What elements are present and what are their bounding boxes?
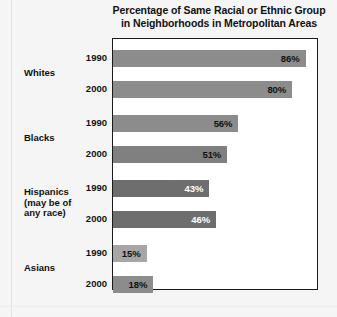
chart-title-line-1: Percentage of Same Racial or Ethnic Grou… [104,4,334,17]
bar-value-label: 80% [267,84,292,95]
bar-row: 43% [113,180,319,197]
plot-area: 86%80%56%51%43%46%15%18% [112,38,318,290]
bar-whites-1990: 86% [113,50,306,67]
bar-row: 46% [113,211,319,228]
bar-row: 56% [113,115,319,132]
bar-value-label: 86% [281,53,306,64]
group-label-asians: Asians [24,263,90,274]
bar-row: 51% [113,146,319,163]
bar-hispanics-1990: 43% [113,180,209,197]
bar-blacks-1990: 56% [113,115,238,132]
year-label-2000: 2000 [73,148,107,159]
bar-asians-1990: 15% [113,245,147,262]
group-label-line: any race) [24,208,90,219]
bar-value-label: 15% [122,248,147,259]
bar-asians-2000: 18% [113,276,153,293]
year-label-1990: 1990 [73,52,107,63]
group-label-line: Whites [24,68,90,79]
bar-value-label: 46% [191,214,216,225]
chart-figure: Percentage of Same Racial or Ethnic Grou… [0,0,337,317]
bar-value-label: 43% [185,183,210,194]
bar-row: 18% [113,276,319,293]
year-label-2000: 2000 [73,83,107,94]
bar-row: 15% [113,245,319,262]
group-label-hispanics: Hispanics(may be ofany race) [24,187,90,219]
bar-blacks-2000: 51% [113,146,227,163]
page-edge-rule-bottom [0,306,337,307]
bar-row: 80% [113,81,319,98]
chart-title-line-2: in Neighborhoods in Metropolitan Areas [104,17,334,30]
group-label-line: Blacks [24,133,90,144]
year-label-1990: 1990 [73,247,107,258]
group-label-line: Asians [24,263,90,274]
chart-title: Percentage of Same Racial or Ethnic Grou… [104,4,334,29]
bar-hispanics-2000: 46% [113,211,216,228]
bar-row: 86% [113,50,319,67]
bar-value-label: 56% [214,118,239,129]
bar-value-label: 51% [202,149,227,160]
group-label-blacks: Blacks [24,133,90,144]
bar-value-label: 18% [129,279,154,290]
group-label-whites: Whites [24,68,90,79]
year-label-1990: 1990 [73,117,107,128]
year-label-2000: 2000 [73,278,107,289]
category-label-column: 19902000Whites19902000Blacks19902000Hisp… [0,38,112,290]
bar-whites-2000: 80% [113,81,292,98]
